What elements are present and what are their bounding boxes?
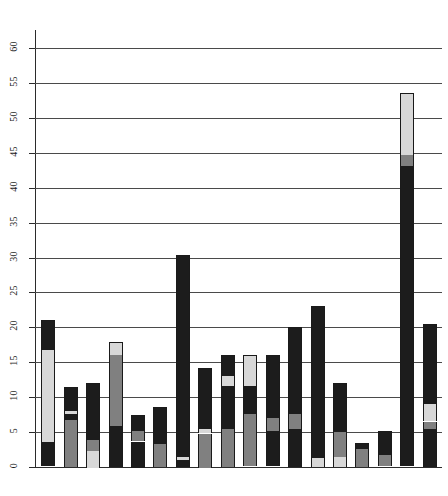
y-axis-tick <box>29 467 35 468</box>
bar <box>333 383 347 467</box>
bar <box>243 355 257 467</box>
bar <box>288 327 302 467</box>
bar-segment <box>423 429 437 467</box>
bar-segment <box>64 387 78 411</box>
y-axis-tick <box>29 362 35 363</box>
bar <box>221 355 235 467</box>
bar-segment <box>153 443 167 467</box>
bar-segment <box>423 422 437 429</box>
bar <box>198 368 212 467</box>
bar-segment <box>41 350 55 442</box>
gridline <box>35 362 442 363</box>
bar <box>311 306 325 467</box>
y-axis-tick <box>29 83 35 84</box>
bar <box>266 355 280 467</box>
gridline <box>35 327 442 328</box>
bar-segment <box>131 431 145 441</box>
gridline <box>35 188 442 189</box>
bar-segment <box>153 431 167 444</box>
y-axis-tick <box>29 153 35 154</box>
bar-segment <box>131 442 145 468</box>
y-axis-tick-label: 20 <box>8 313 19 339</box>
bar-segment <box>243 386 257 414</box>
bar-segment <box>355 443 369 449</box>
bar-segment <box>86 451 100 468</box>
bar-segment <box>64 414 78 420</box>
y-axis-tick-label: 45 <box>8 139 19 165</box>
bar-segment <box>333 383 347 432</box>
y-axis-tick-label: 25 <box>8 278 19 304</box>
gridline <box>35 223 442 224</box>
bar-segment <box>333 432 347 457</box>
gridline <box>35 83 442 84</box>
bar-segment <box>221 355 235 376</box>
y-axis-tick <box>29 48 35 49</box>
bar-segment <box>423 324 437 404</box>
bar <box>86 383 100 467</box>
bar-segment <box>153 407 167 431</box>
bar <box>41 320 55 467</box>
bar-segment <box>400 155 414 166</box>
gridline <box>35 48 442 49</box>
y-axis-tick <box>29 118 35 119</box>
bar <box>176 255 190 467</box>
gridline <box>35 292 442 293</box>
bar-segment <box>288 414 302 429</box>
y-axis-tick-label: 50 <box>8 104 19 130</box>
bar-segment <box>109 426 123 467</box>
bar-segment <box>378 431 392 455</box>
bar-segment <box>198 368 212 429</box>
bar <box>378 431 392 467</box>
bar-segment <box>221 422 235 429</box>
bar <box>400 93 414 467</box>
bar-segment <box>243 355 257 386</box>
y-axis-tick-label: 60 <box>8 34 19 60</box>
y-axis-tick-label: 10 <box>8 383 19 409</box>
bar-chart: 051015202530354045505560 <box>0 0 448 496</box>
y-axis-tick <box>29 397 35 398</box>
bar-segment <box>423 404 437 421</box>
bar-segment <box>109 342 123 355</box>
bar-segment <box>221 429 235 467</box>
bar-segment <box>266 430 280 466</box>
y-axis-tick-label: 15 <box>8 348 19 374</box>
bar <box>355 443 369 467</box>
bar-segment <box>378 455 392 466</box>
bar <box>109 342 123 467</box>
gridline <box>35 118 442 119</box>
bar <box>153 407 167 467</box>
bar-segment <box>288 429 302 467</box>
bar <box>131 415 145 467</box>
y-axis-tick-label: 55 <box>8 69 19 95</box>
y-axis-tick <box>29 223 35 224</box>
gridline <box>35 258 442 259</box>
bar-segment <box>176 457 190 460</box>
bar-segment <box>333 457 347 467</box>
bar-segment <box>288 327 302 414</box>
bar-segment <box>266 418 280 431</box>
bar-segment <box>86 440 100 451</box>
bar-segment <box>198 434 212 468</box>
y-axis-tick-label: 35 <box>8 209 19 235</box>
bar-segment <box>41 320 55 350</box>
y-axis-line <box>35 30 36 467</box>
bar-segment <box>221 376 235 386</box>
bar-segment <box>221 386 235 422</box>
bar-segment <box>41 442 55 466</box>
bar-segment <box>243 414 257 466</box>
bar-segment <box>311 306 325 458</box>
y-axis-tick <box>29 188 35 189</box>
bar-segment <box>400 166 414 466</box>
bar <box>64 387 78 467</box>
bar-segment <box>109 355 123 426</box>
bar-segment <box>86 383 100 440</box>
bar <box>423 324 437 467</box>
bar-segment <box>176 255 190 457</box>
bar-segment <box>311 458 325 467</box>
y-axis-tick-label: 40 <box>8 174 19 200</box>
y-axis-tick <box>29 258 35 259</box>
bar-segment <box>400 93 414 155</box>
y-axis-tick <box>29 327 35 328</box>
y-axis-tick <box>29 292 35 293</box>
y-axis-tick <box>29 432 35 433</box>
